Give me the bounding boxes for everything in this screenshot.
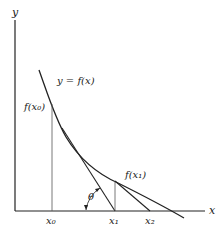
x0-label: x₀	[46, 215, 56, 226]
f-x0-label: f(x₀)	[23, 101, 45, 112]
f-x1-label: f(x₁)	[124, 169, 146, 180]
x1-label: x₁	[109, 215, 119, 226]
curve-f	[39, 70, 184, 218]
y-axis-label: y	[11, 6, 19, 19]
newton-method-diagram: y x y = f(x) f(x₀) x₀ f(x₁) x₁ x₂ θ	[0, 0, 223, 232]
x2-label: x₂	[145, 215, 155, 226]
x-axis-label: x	[209, 204, 216, 217]
theta-label: θ	[88, 191, 94, 202]
theta-arrow-bottom-icon	[84, 205, 88, 210]
curve-label: y = f(x)	[56, 75, 95, 86]
